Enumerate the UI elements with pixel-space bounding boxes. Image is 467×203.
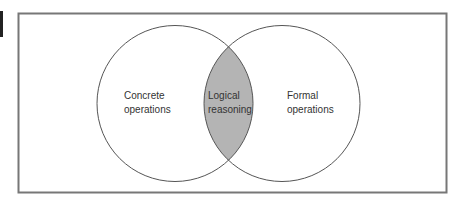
label-concrete-operations: Concrete operations <box>124 89 171 117</box>
label-line: Logical <box>208 89 252 103</box>
label-formal-operations: Formal operations <box>287 89 334 117</box>
label-line: reasoning <box>208 103 252 117</box>
label-line: operations <box>287 103 334 117</box>
label-line: Concrete <box>124 89 171 103</box>
label-line: operations <box>124 103 171 117</box>
label-line: Formal <box>287 89 334 103</box>
label-logical-reasoning: Logical reasoning <box>208 89 252 117</box>
